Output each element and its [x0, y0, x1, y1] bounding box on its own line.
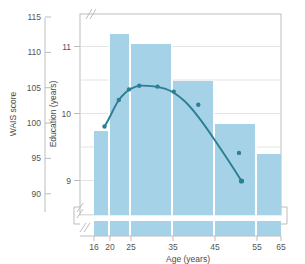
- wais-axis-title: WAIS score: [8, 91, 18, 136]
- chart-figure: 115 110 105 100 95 90 WAIS score 11 10 9…: [0, 0, 305, 264]
- chart-canvas: 115 110 105 100 95 90 WAIS score 11 10 9…: [0, 0, 305, 264]
- x-tick-45: 45: [210, 242, 220, 252]
- x-axis-title: Age (years): [166, 254, 210, 264]
- wais-tick-100: 100: [27, 118, 41, 128]
- x-tick-55: 55: [252, 242, 262, 252]
- wais-tick-95: 95: [32, 153, 42, 163]
- wais-tick-105: 105: [27, 83, 41, 93]
- bar-35-45: [173, 81, 213, 215]
- bar-16-20: [94, 131, 108, 215]
- x-tick-20: 20: [105, 242, 115, 252]
- wais-tick-110: 110: [27, 47, 41, 57]
- wais-tick-115: 115: [27, 12, 41, 22]
- wais-tick-90: 90: [32, 189, 42, 199]
- x-tick-16: 16: [89, 242, 99, 252]
- x-tick-labels: 16 20 25 35 45 55 65: [89, 242, 286, 252]
- education-axis-title: Education (years): [48, 81, 58, 148]
- x-tick-35: 35: [168, 242, 178, 252]
- education-tick-11: 11: [62, 42, 71, 52]
- x-axis-ticks: [94, 236, 281, 241]
- x-tick-65: 65: [276, 242, 286, 252]
- education-axis-ticks: [74, 47, 80, 181]
- education-tick-9: 9: [66, 176, 71, 186]
- education-tick-labels: 11 10 9: [62, 42, 72, 186]
- bar-series-break-band: [94, 221, 281, 236]
- education-tick-10: 10: [62, 109, 72, 119]
- bar-20-25: [110, 34, 129, 215]
- bar-25-35: [131, 44, 171, 215]
- x-tick-25: 25: [126, 242, 136, 252]
- bar-55-65: [257, 154, 281, 215]
- wais-tick-labels: 115 110 105 100 95 90: [27, 12, 41, 199]
